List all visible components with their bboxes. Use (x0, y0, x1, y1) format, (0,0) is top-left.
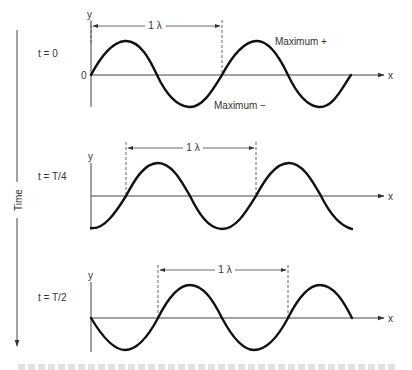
panel-tT2: t = T/2 y x 1 λ (38, 264, 393, 352)
time-label: t = T/2 (38, 292, 67, 303)
x-axis-label: x (388, 191, 393, 202)
panel-tT4: t = T/4 y x 1 λ (38, 142, 393, 230)
x-axis-label: x (388, 70, 393, 81)
y-axis-label: y (87, 9, 92, 20)
maximum-minus-label: Maximum − (214, 100, 266, 111)
figure-caption-cutoff (18, 364, 398, 370)
wave-propagation-diagram: Time t = 0 y 0 x 1 λ Maximum + Maximum −… (0, 0, 412, 370)
wavelength-label: 1 λ (218, 264, 231, 275)
origin-label: 0 (81, 70, 87, 81)
time-label: t = 0 (38, 48, 58, 59)
x-axis-label: x (388, 313, 393, 324)
panel-t0: t = 0 y 0 x 1 λ Maximum + Maximum − (38, 9, 393, 111)
y-axis-label: y (88, 270, 93, 281)
time-axis-label: Time (13, 189, 24, 211)
time-label: t = T/4 (38, 171, 67, 182)
time-arrow: Time (13, 30, 24, 346)
wave-curve (91, 41, 351, 107)
y-axis-label: y (88, 151, 93, 162)
maximum-plus-label: Maximum + (275, 36, 327, 47)
wavelength-label: 1 λ (186, 142, 199, 153)
wavelength-label: 1 λ (148, 20, 161, 31)
